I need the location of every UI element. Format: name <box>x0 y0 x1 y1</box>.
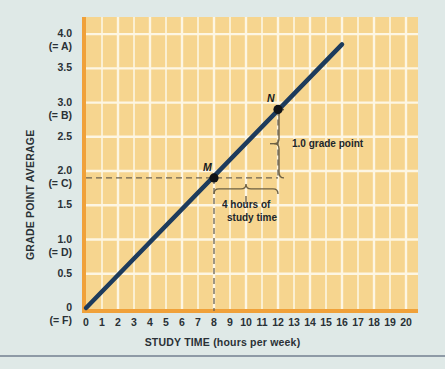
run-annotation-text-line1: 4 hours of <box>222 199 270 210</box>
y-axis-tick-label: 3.0 <box>24 96 72 108</box>
y-axis-grade-letter-label: (= A) <box>24 40 72 52</box>
bottom-separator-rule <box>0 355 445 357</box>
y-axis-spine <box>82 17 86 313</box>
x-axis-spine <box>82 309 418 313</box>
y-axis-tick-label: 1.0 <box>24 233 72 245</box>
data-point-marker-m <box>209 173 218 182</box>
y-axis-tick-label: 2.0 <box>24 164 72 176</box>
y-axis-tick-label: 0 <box>24 301 72 313</box>
y-axis-tick-label: 4.0 <box>24 27 72 39</box>
y-axis-grade-letter-label: (= B) <box>24 109 72 121</box>
y-axis-tick-label: 1.5 <box>24 198 72 210</box>
point-label-n: N <box>267 92 275 104</box>
run-annotation-text-line2: study time <box>227 212 277 223</box>
x-axis-tick-label: 20 <box>397 316 415 328</box>
x-axis-title: STUDY TIME (hours per week) <box>0 336 445 348</box>
point-label-m: M <box>203 161 212 173</box>
y-axis-grade-letter-label: (= D) <box>24 246 72 258</box>
plot-area-background <box>86 17 418 311</box>
y-axis-grade-letter-label: (= F) <box>24 314 72 326</box>
y-axis-tick-label: 3.5 <box>24 61 72 73</box>
data-point-marker-n <box>273 105 282 114</box>
y-axis-tick-label: 2.5 <box>24 130 72 142</box>
rise-annotation-text: 1.0 grade point <box>292 138 363 149</box>
chart-figure: GRADE POINT AVERAGE STUDY TIME (hours pe… <box>0 0 445 369</box>
y-axis-tick-label: 0.5 <box>24 267 72 279</box>
y-axis-grade-letter-label: (= C) <box>24 177 72 189</box>
